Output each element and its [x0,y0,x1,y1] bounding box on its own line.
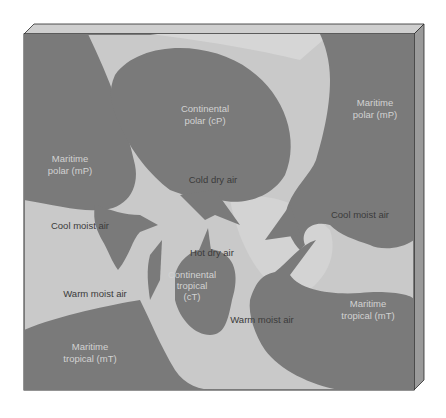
label-line: polar (cP) [184,115,225,126]
svg-text:tropical (mT): tropical (mT) [341,310,394,321]
svg-text:Continental: Continental [168,269,216,280]
air-mass-label-mP-east: Maritime polar (mP) [353,97,397,120]
label-line: Maritime [72,341,108,352]
air-flow-label-warm-moist-west: Warm moist air [63,288,127,299]
label-line: Maritime [350,298,386,309]
frame-right-face [414,24,424,390]
air-mass-label-cP: Continental polar (cP) [181,103,229,126]
svg-text:Maritime: Maritime [350,298,386,309]
svg-text:Maritime: Maritime [52,153,88,164]
label-line: tropical (mT) [341,310,394,321]
svg-text:polar (mP): polar (mP) [48,165,92,176]
label-line: polar (mP) [48,165,92,176]
label-line: Maritime [357,97,393,108]
air-masses-diagram: Continental polar (cP) Maritime polar (m… [0,0,446,418]
label-line: tropical (mT) [63,353,116,364]
air-flow-label-hot-dry: Hot dry air [190,247,234,258]
air-mass-label-mP-west: Maritime polar (mP) [48,153,92,176]
svg-text:Maritime: Maritime [357,97,393,108]
air-flow-label-warm-moist-east: Warm moist air [230,314,294,325]
svg-text:polar (mP): polar (mP) [353,109,397,120]
frame-top-face [24,24,424,34]
label-line: Continental [181,103,229,114]
air-flow-label-cool-moist-west: Cool moist air [51,220,109,231]
label-line: Continental [168,269,216,280]
label-line: Maritime [52,153,88,164]
svg-text:tropical: tropical [177,280,208,291]
label-line: polar (mP) [353,109,397,120]
label-line: tropical [177,280,208,291]
svg-text:polar (cP): polar (cP) [184,115,225,126]
svg-text:Continental: Continental [181,103,229,114]
svg-text:(cT): (cT) [184,291,201,302]
label-line: (cT) [184,291,201,302]
svg-text:Maritime: Maritime [72,341,108,352]
air-flow-label-cool-moist-east: Cool moist air [331,209,389,220]
svg-text:tropical (mT): tropical (mT) [63,353,116,364]
air-flow-label-cold-dry: Cold dry air [189,174,238,185]
